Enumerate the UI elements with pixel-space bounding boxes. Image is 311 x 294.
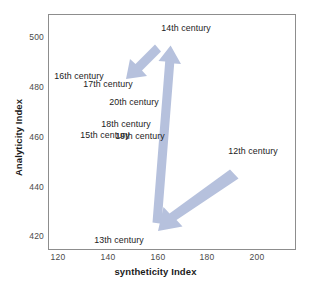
point-label-12th: 12th century xyxy=(228,146,278,156)
x-axis-title: syntheticity Index xyxy=(0,266,311,277)
point-label-19th: 19th century xyxy=(115,131,165,141)
x-tick-label: 160 xyxy=(151,252,166,262)
point-label-17th: 17th century xyxy=(83,79,133,89)
point-label-18th: 18th century xyxy=(101,119,151,129)
point-label-20th: 20th century xyxy=(109,97,159,107)
x-tick-label: 180 xyxy=(200,252,215,262)
x-tick-label: 200 xyxy=(250,252,265,262)
y-tick-label: 500 xyxy=(0,32,44,42)
point-label-14th: 14th century xyxy=(161,23,211,33)
chart-container: 500 480 460 440 420 120 140 160 180 200 … xyxy=(0,0,311,294)
y-axis-title: Analyticity Index xyxy=(13,68,24,208)
x-tick-label: 120 xyxy=(51,252,66,262)
y-tick-label: 420 xyxy=(0,231,44,241)
x-tick-label: 140 xyxy=(101,252,116,262)
point-label-13th: 13th century xyxy=(94,235,144,245)
